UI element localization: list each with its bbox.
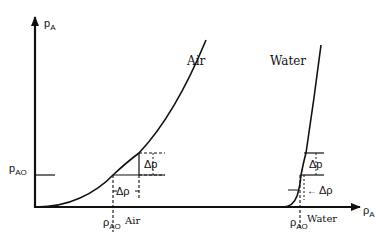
x-axis-label: ρA (363, 204, 375, 219)
water-curve-label: Water (270, 54, 306, 68)
water-rho-ao-caption: Water (307, 213, 337, 224)
air-curve (36, 40, 206, 207)
air-curve-label: Air (186, 54, 206, 68)
water-delta-p: Δp (309, 158, 322, 170)
air-rho-ao-caption: Air (124, 215, 140, 226)
pressure-density-diagram: pA ρA pAO Air Δp Δρ ρAO Air Water Δp ← Δ… (0, 0, 382, 244)
water-delta-rho: Δρ (319, 184, 333, 196)
pao-label: pAO (9, 162, 27, 177)
water-curve (283, 45, 321, 207)
air-delta-p: Δp (144, 158, 157, 170)
y-axis-label: pA (44, 17, 56, 32)
water-delta-rho-arrow: ← (307, 185, 317, 196)
water-rho-ao-label: ρAO (290, 216, 308, 231)
air-delta-rho: Δρ (116, 185, 130, 197)
air-rho-ao-label: ρAO (103, 216, 121, 231)
